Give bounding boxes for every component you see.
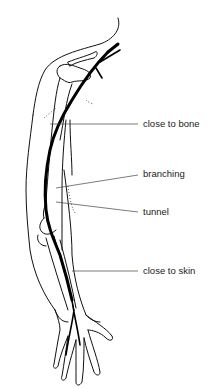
label-tunnel: tunnel [143, 207, 169, 217]
arm-inner-contour [62, 120, 66, 250]
label-close-to-bone: close to bone [143, 119, 200, 129]
elbow-joint-lower [37, 235, 46, 246]
forearm-inner-contour [70, 120, 72, 175]
forearm-bone-3 [60, 240, 76, 308]
nerve-hand-branch [66, 300, 80, 355]
nerve-root-1 [108, 44, 118, 52]
label-branching: branching [143, 169, 185, 179]
forearm-outer [64, 170, 86, 315]
dotted-shoulder [86, 100, 94, 104]
finger-index [84, 330, 100, 375]
nerve-main [45, 52, 108, 300]
label-close-to-skin: close to skin [143, 266, 195, 276]
arm-illustration [0, 0, 223, 389]
clavicle [68, 52, 97, 66]
leader-branching [56, 175, 138, 188]
nerve-root-3 [96, 68, 102, 78]
arm-diagram: close to bone branching tunnel close to … [0, 0, 223, 389]
